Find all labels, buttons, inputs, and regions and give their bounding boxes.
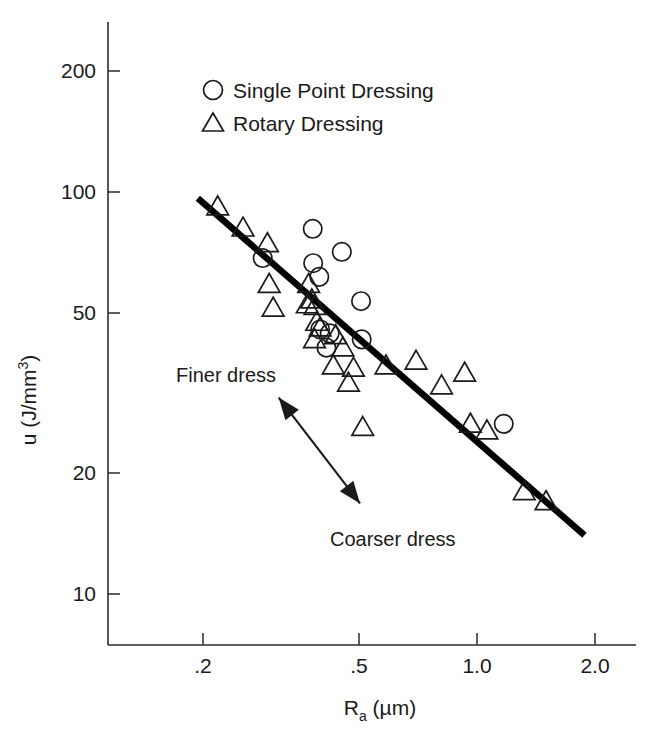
x-tick-label-1.0: 1.0 — [462, 654, 491, 677]
data-point-circle — [333, 243, 351, 261]
svg-text:u (J/mm3): u (J/mm3) — [15, 355, 40, 446]
data-point-triangle — [338, 372, 360, 391]
legend-circle-icon — [204, 81, 223, 100]
legend-item-single-point-dressing: Single Point Dressing — [204, 79, 434, 102]
x-tick-label-2.0: 2.0 — [580, 654, 609, 677]
data-point-triangle — [431, 375, 453, 394]
legend-item-rotary-dressing: Rotary Dressing — [203, 112, 384, 135]
y-tick-label-100: 100 — [61, 180, 96, 203]
y-tick-label-20: 20 — [73, 461, 96, 484]
data-point-triangle — [405, 350, 427, 369]
legend-triangle-icon — [203, 113, 224, 131]
data-point-triangle — [352, 417, 374, 436]
data-point-circle — [495, 415, 513, 433]
y-tick-label-50: 50 — [73, 301, 96, 324]
x-axis-ticks — [203, 633, 595, 645]
y-axis-tick-labels: 102050100200 — [61, 59, 96, 605]
y-axis-title-main: u (J/mm — [17, 369, 40, 445]
data-point-triangle — [454, 362, 476, 381]
arrow-head-coarser — [340, 481, 360, 504]
data-point-circle — [304, 220, 322, 238]
series-single-point-dressing — [254, 220, 513, 433]
data-point-circle — [352, 292, 370, 310]
coarser-dress-label: Coarser dress — [330, 528, 456, 550]
data-point-triangle — [323, 355, 345, 374]
y-axis-ticks — [108, 71, 120, 594]
y-axis-title: u (J/mm3) — [15, 355, 40, 446]
arrow-head-finer — [279, 398, 299, 421]
log-log-scatter-plot: 102050100200 .2.51.02.0 u (J/mm3) Ra (µm… — [0, 0, 661, 736]
x-axis-title-subscript: a — [359, 708, 367, 724]
y-axis-title-superscript: 3 — [15, 361, 31, 369]
dress-direction-arrow — [279, 398, 360, 504]
x-axis-title-unit: (µm) — [367, 696, 416, 719]
legend-label-0: Single Point Dressing — [233, 79, 434, 102]
legend: Single Point Dressing Rotary Dressing — [203, 79, 434, 135]
x-tick-label-.5: .5 — [350, 654, 368, 677]
x-axis-title-main: R — [344, 696, 359, 719]
annotation-group: Finer dress Coarser dress — [176, 364, 456, 550]
data-point-triangle — [258, 274, 280, 293]
x-axis-title: Ra (µm) — [344, 696, 416, 724]
chart-container: 102050100200 .2.51.02.0 u (J/mm3) Ra (µm… — [0, 0, 661, 736]
finer-dress-label: Finer dress — [176, 364, 276, 386]
x-tick-label-.2: .2 — [194, 654, 212, 677]
svg-text:Ra (µm): Ra (µm) — [344, 696, 416, 724]
x-axis-tick-labels: .2.51.02.0 — [194, 654, 609, 677]
data-point-triangle — [262, 297, 284, 316]
data-point-triangle — [343, 357, 365, 376]
y-tick-label-10: 10 — [73, 582, 96, 605]
y-axis-title-close: ) — [17, 355, 40, 362]
y-tick-label-200: 200 — [61, 59, 96, 82]
legend-label-1: Rotary Dressing — [233, 112, 384, 135]
